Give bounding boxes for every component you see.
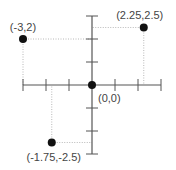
point-label: (-1.75,-2.5) — [27, 151, 81, 163]
data-point — [88, 81, 96, 89]
coordinate-plane: (-3,2)(2.25,2.5)(0,0)(-1.75,-2.5) — [0, 0, 176, 170]
point-label: (2.25,2.5) — [116, 9, 163, 21]
point-label: (-3,2) — [10, 21, 36, 33]
point-label: (0,0) — [98, 92, 121, 104]
data-point — [19, 35, 27, 43]
data-point — [140, 24, 148, 32]
data-point — [48, 139, 56, 147]
